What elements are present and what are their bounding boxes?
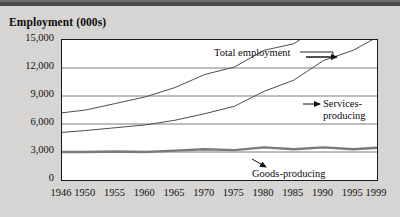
annotation-services-producing: Services- producing [323,98,366,121]
page-top-rule-highlight [0,0,400,2]
x-axis-tick-label: 1980 [247,187,279,198]
y-axis-tick-label: 12,000 [2,60,54,71]
annotation-total-employment-label: Total employment [214,47,291,58]
y-axis-tick-label: 3,000 [2,144,54,155]
x-axis-tick-label: 1970 [188,187,220,198]
y-axis-tick-label: 0 [2,172,54,183]
x-axis-tick-label: 1955 [98,187,130,198]
y-axis-tick-label: 15,000 [2,32,54,43]
annotation-total-employment: Total employment [214,47,291,59]
x-axis-tick-label: 1999 [360,187,392,198]
annotation-services-producing-label-line2: producing [323,110,366,122]
x-axis-tick-label: 1990 [307,187,339,198]
y-axis-tick-label: 6,000 [2,116,54,127]
y-axis-tick-label: 9,000 [2,88,54,99]
chart-title-container: Employment (000s) [9,16,106,28]
x-axis-tick-label: 1965 [158,187,190,198]
x-axis-tick-label: 1985 [277,187,309,198]
x-axis-tick-label: 1960 [128,187,160,198]
x-axis-tick-label: 1975 [217,187,249,198]
page-top-rule [0,0,400,6]
series-line-goods-producing [62,147,377,152]
page-title: Employment (000s) [9,16,106,28]
annotation-services-producing-label-line1: Services- [323,98,366,110]
annotation-goods-producing: Goods-producing [252,168,326,180]
annotation-goods-producing-label: Goods-producing [252,168,326,179]
x-axis-tick-label: 1950 [69,187,101,198]
